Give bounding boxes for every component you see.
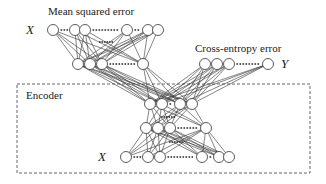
neuron-node [197, 152, 208, 163]
y-output-label: Y [281, 56, 288, 72]
neuron-node [212, 59, 223, 70]
neuron-node [175, 99, 186, 110]
x-input-label-bottom: X [98, 149, 106, 165]
mse-title: Mean squared error [48, 5, 134, 17]
ce-title: Cross-entropy error [195, 42, 281, 54]
neuron-node [224, 59, 235, 70]
neuron-node [141, 123, 152, 134]
neuron-node [121, 152, 132, 163]
neuron-node [201, 123, 212, 134]
neuron-node [224, 152, 235, 163]
x-input-label-top: X [26, 22, 34, 38]
neuron-node [48, 25, 59, 36]
neuron-node [85, 59, 96, 70]
neuron-node [97, 59, 108, 70]
neuron-node [200, 59, 211, 70]
neuron-node [143, 152, 154, 163]
neuron-node [263, 59, 274, 70]
neuron-node [138, 59, 149, 70]
neuron-node [145, 99, 156, 110]
neuron-node [165, 123, 176, 134]
neuron-node [73, 59, 84, 70]
encoder-label: Encoder [26, 89, 63, 101]
neuron-node [143, 25, 154, 36]
neuron-node [122, 25, 133, 36]
neuron-node [155, 152, 166, 163]
neuron-node [70, 25, 81, 36]
neuron-node [187, 99, 198, 110]
neuron-node [214, 152, 225, 163]
neuron-node [153, 25, 164, 36]
neuron-node [153, 123, 164, 134]
neuron-node [80, 25, 91, 36]
neuron-node [157, 99, 168, 110]
